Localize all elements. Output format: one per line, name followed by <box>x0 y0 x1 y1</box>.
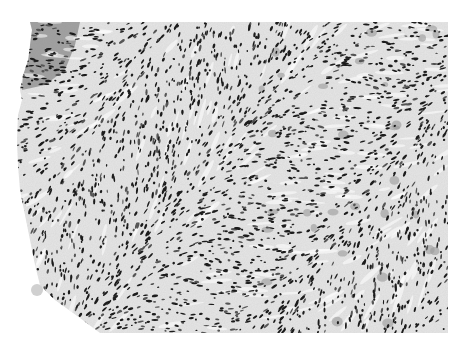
debris-spot <box>31 284 43 296</box>
tissue-section <box>0 0 465 345</box>
histology-micrograph <box>0 0 465 345</box>
